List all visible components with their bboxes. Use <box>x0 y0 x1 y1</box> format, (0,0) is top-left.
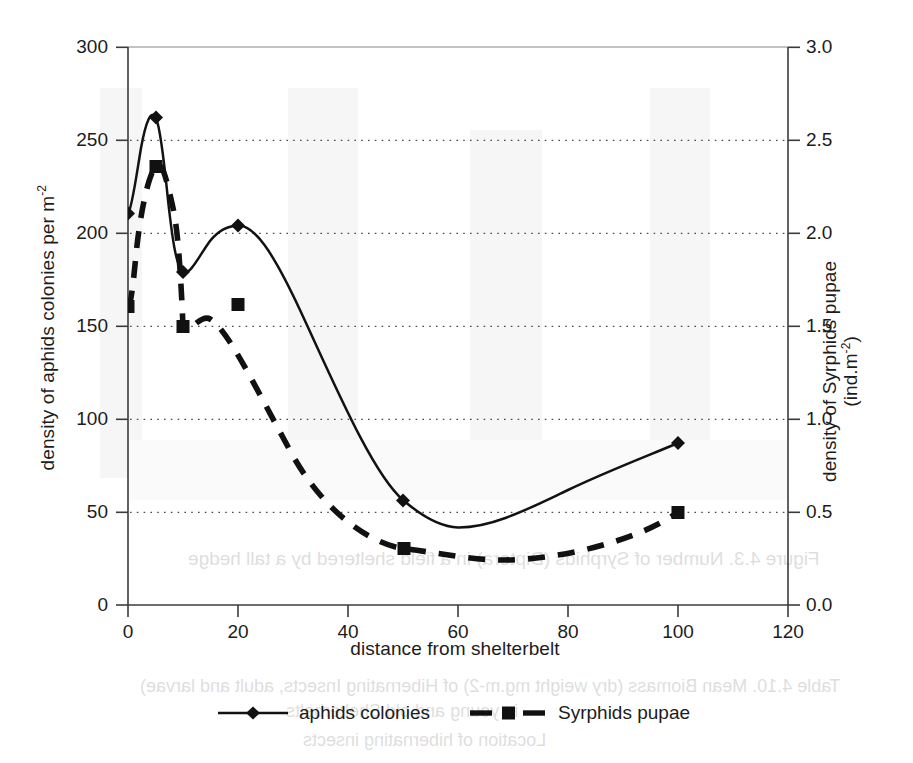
marker-square <box>177 320 190 333</box>
y-axis-label-left-superscript: -2 <box>35 185 49 196</box>
ytick-left-0: 0 <box>48 594 108 616</box>
ytick-right-2-5: 2.5 <box>806 129 866 151</box>
marker-diamond <box>149 111 163 125</box>
ytick-left-250: 250 <box>48 129 108 151</box>
marker-square <box>672 506 685 519</box>
legend-glyph-syrphids <box>470 707 545 720</box>
y-axis-label-right: density of Syrphids pupae (ind.m-2) <box>819 206 862 536</box>
x-axis-label: distance from shelterbelt <box>115 638 795 660</box>
ytick-left-300: 300 <box>48 36 108 58</box>
marker-square <box>232 298 245 311</box>
ytick-left-50: 50 <box>48 501 108 523</box>
marker-square <box>150 160 163 173</box>
marker-diamond <box>231 219 245 233</box>
y-axis-label-right-line1: density of Syrphids pupae <box>819 261 840 482</box>
scan-artifact-bands <box>100 88 788 500</box>
legend-glyph-aphids <box>218 707 288 720</box>
bottom-axis-ticks <box>128 605 788 617</box>
y-axis-label-right-line2-end: ) <box>840 336 861 342</box>
y-axis-label-right-superscript: -2 <box>839 343 853 354</box>
y-axis-label-right-wrap: density of Syrphids pupae (ind.m-2) <box>770 200 910 540</box>
legend-label-aphids-colonies: aphids colonies <box>299 702 430 724</box>
y-axis-label-right-line2: (ind.m <box>840 353 861 406</box>
legend-marker-square <box>502 707 515 720</box>
legend-label-syrphids-pupae: Syrphids pupae <box>558 702 690 724</box>
ytick-right-0-0: 0.0 <box>806 594 866 616</box>
y-axis-label-left-text: density of aphids colonies per m <box>37 196 58 471</box>
legend-marker-diamond <box>246 707 260 720</box>
marker-square <box>398 542 411 555</box>
ytick-right-3-0: 3.0 <box>806 36 866 58</box>
chart-figure: 300 250 200 150 100 50 0 3.0 2.5 2.0 1.5… <box>0 0 913 763</box>
y-axis-label-left: density of aphids colonies per m-2 <box>35 163 58 493</box>
